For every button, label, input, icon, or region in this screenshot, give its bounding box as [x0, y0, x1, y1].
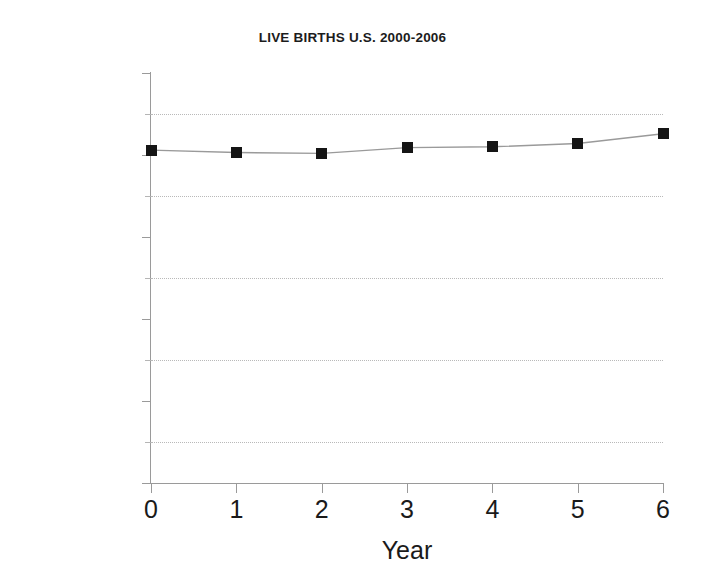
gridline-horizontal	[151, 196, 663, 197]
y-axis-minor-tick	[145, 278, 151, 279]
gridline-horizontal	[151, 360, 663, 361]
plot-area	[151, 73, 663, 483]
x-axis-tick-label: 3	[377, 497, 437, 522]
data-point-marker	[402, 142, 413, 153]
data-point-marker	[572, 138, 583, 149]
x-axis-tick	[492, 483, 493, 493]
chart-title: LIVE BIRTHS U.S. 2000-2006	[0, 30, 705, 45]
x-axis-tick	[663, 483, 664, 493]
x-axis-tick	[236, 483, 237, 493]
y-axis-minor-tick	[145, 114, 151, 115]
x-axis-tick	[151, 483, 152, 493]
y-axis-minor-tick	[145, 442, 151, 443]
data-point-marker	[231, 147, 242, 158]
chart-container: LIVE BIRTHS U.S. 2000-2006 0100000020000…	[0, 0, 705, 585]
data-point-marker	[487, 141, 498, 152]
x-axis-tick	[407, 483, 408, 493]
gridline-horizontal	[151, 114, 663, 115]
gridline-horizontal	[151, 442, 663, 443]
data-point-marker	[316, 148, 327, 159]
y-axis-minor-tick	[145, 196, 151, 197]
x-axis-tick-label: 5	[548, 497, 608, 522]
y-axis-tick	[142, 319, 151, 320]
x-axis-tick-label: 0	[121, 497, 181, 522]
gridline-horizontal	[151, 278, 663, 279]
y-axis-minor-tick	[145, 360, 151, 361]
x-axis-tick-label: 1	[206, 497, 266, 522]
y-axis-tick	[142, 73, 151, 74]
data-point-marker	[658, 128, 669, 139]
x-axis-tick	[322, 483, 323, 493]
x-axis-tick-label: 6	[633, 497, 693, 522]
x-axis-tick	[578, 483, 579, 493]
data-point-marker	[146, 145, 157, 156]
y-axis-tick	[142, 483, 151, 484]
x-axis-tick-label: 4	[462, 497, 522, 522]
y-axis-tick	[142, 401, 151, 402]
x-axis-tick-label: 2	[292, 497, 352, 522]
y-axis-tick	[142, 237, 151, 238]
x-axis-title: Year	[151, 536, 663, 565]
